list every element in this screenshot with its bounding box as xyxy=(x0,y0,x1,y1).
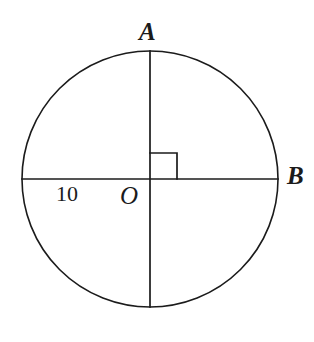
radius-measure-label: 10 xyxy=(56,183,78,205)
geometry-figure: A B O 10 xyxy=(0,0,314,342)
point-label-b: B xyxy=(287,163,304,188)
geometry-canvas xyxy=(0,0,314,342)
center-label-o: O xyxy=(120,183,138,208)
point-label-a: A xyxy=(139,19,156,44)
right-angle-mark-icon xyxy=(150,153,177,179)
